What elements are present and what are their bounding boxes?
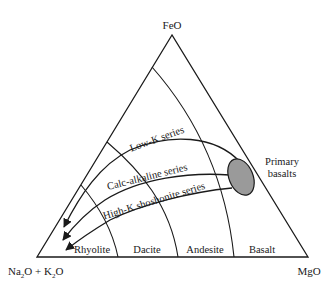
- field-label-rhyolite: Rhyolite: [74, 244, 111, 255]
- field-label-andesite: Andesite: [186, 244, 224, 255]
- primary-basalts-label-line2: basalts: [268, 168, 297, 179]
- primary-basalts-region: [223, 155, 259, 199]
- field-label-dacite: Dacite: [133, 244, 161, 255]
- vertex-label-alkalis: Na2O + K2O: [8, 265, 63, 280]
- boundary-andesite-basalt: [152, 67, 234, 257]
- ternary-triangle: [37, 35, 308, 257]
- curve-low-k-series: [64, 139, 240, 227]
- field-label-basalt: Basalt: [249, 244, 275, 255]
- afm-ternary-diagram: FeO MgO Na2O + K2O Rhyolite Dacite Andes…: [0, 0, 336, 290]
- primary-basalts-label-line1: Primary: [265, 156, 300, 167]
- vertex-label-mgo: MgO: [297, 265, 320, 277]
- vertex-label-feo: FeO: [163, 19, 182, 31]
